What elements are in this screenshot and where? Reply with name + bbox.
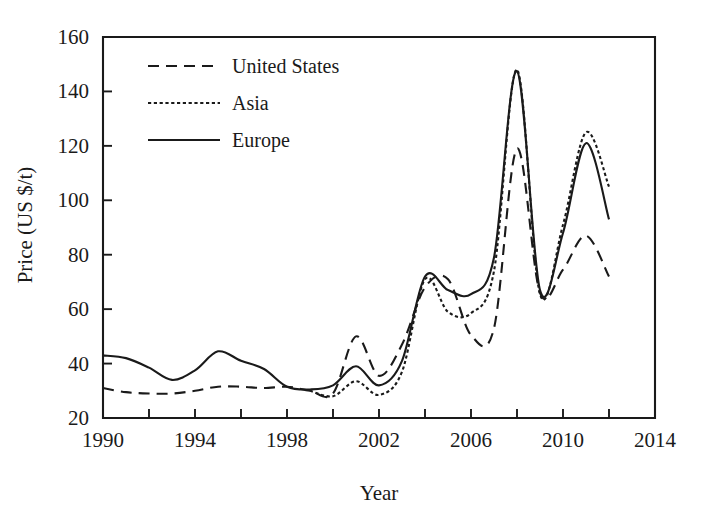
y-tick-label: 60 (68, 297, 89, 321)
y-tick-label: 20 (68, 406, 89, 430)
y-tick-label: 140 (58, 79, 90, 103)
series-line-asia (310, 70, 609, 397)
y-axis-tick-labels: 20406080100120140160 (58, 25, 90, 430)
x-tick-label: 2006 (450, 428, 492, 452)
x-tick-label: 1998 (266, 428, 308, 452)
data-series (103, 70, 609, 398)
axis-ticks (103, 37, 655, 418)
x-axis-title: Year (360, 481, 399, 505)
y-tick-label: 160 (58, 25, 90, 49)
legend-label-united-states: United States (232, 55, 339, 77)
y-tick-label: 100 (58, 188, 90, 212)
y-tick-label: 40 (68, 352, 89, 376)
y-tick-label: 120 (58, 134, 90, 158)
legend: United StatesAsiaEurope (148, 55, 339, 152)
legend-label-asia: Asia (232, 92, 269, 114)
y-tick-label: 80 (68, 243, 89, 267)
x-tick-label: 1990 (82, 428, 124, 452)
x-tick-label: 1994 (174, 428, 217, 452)
x-axis-tick-labels: 1990199419982002200620102014 (82, 428, 677, 452)
plot-frame (103, 37, 655, 418)
legend-label-europe: Europe (232, 129, 290, 152)
series-line-europe (103, 71, 609, 390)
y-axis-title: Price (US $/t) (13, 167, 37, 284)
line-chart: 20406080100120140160 1990199419982002200… (0, 0, 703, 515)
chart-figure: 20406080100120140160 1990199419982002200… (0, 0, 703, 515)
x-tick-label: 2002 (358, 428, 400, 452)
x-tick-label: 2010 (542, 428, 584, 452)
axes (103, 37, 655, 418)
series-line-united-states (103, 148, 609, 397)
x-tick-label: 2014 (634, 428, 677, 452)
